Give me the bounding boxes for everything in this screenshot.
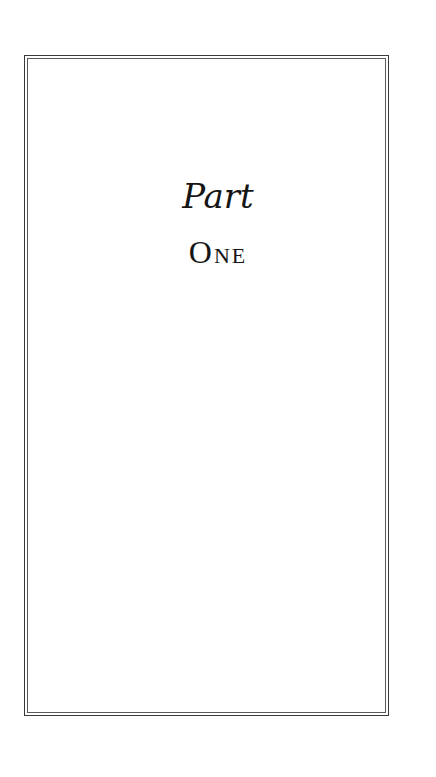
- part-label: Part: [0, 176, 436, 216]
- part-number-title: One: [0, 232, 436, 272]
- page-border-frame: [24, 55, 389, 716]
- page-border-inner-line: [27, 58, 386, 713]
